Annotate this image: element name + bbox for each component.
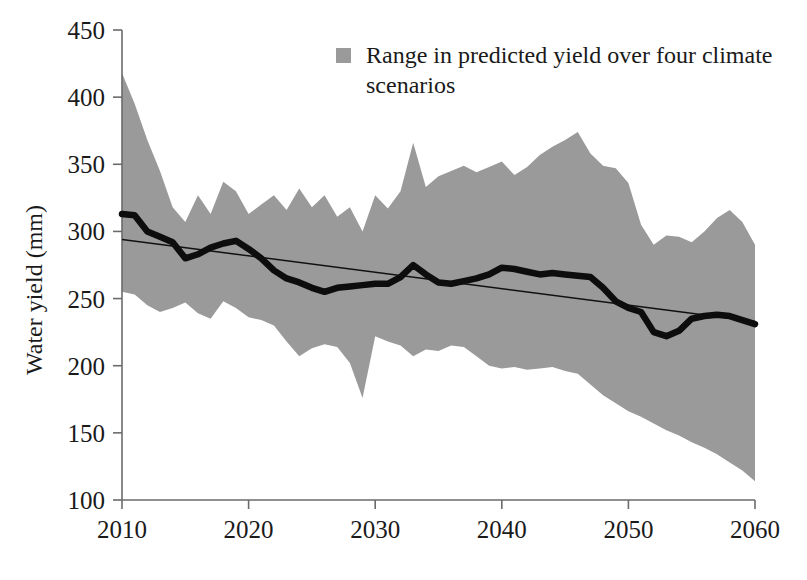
- y-tick-label: 200: [68, 353, 106, 380]
- x-axis-tick-labels: 201020202030204020502060: [97, 516, 780, 543]
- y-axis-tick-marks: [113, 30, 122, 500]
- x-tick-label: 2020: [224, 516, 274, 543]
- y-tick-label: 350: [68, 151, 106, 178]
- y-tick-label: 450: [68, 17, 106, 44]
- uncertainty-band-area: [122, 73, 755, 481]
- x-axis-tick-marks: [122, 500, 755, 509]
- x-tick-label: 2030: [350, 516, 400, 543]
- y-axis-title: Water yield (mm): [21, 205, 47, 375]
- x-tick-label: 2010: [97, 516, 147, 543]
- legend-label-line1: Range in predicted yield over four clima…: [366, 42, 773, 68]
- x-tick-label: 2060: [730, 516, 780, 543]
- chart-legend: Range in predicted yield over four clima…: [336, 42, 773, 98]
- y-tick-label: 100: [68, 487, 106, 514]
- water-yield-chart: 100150200250300350400450 201020202030204…: [0, 0, 807, 580]
- y-tick-label: 400: [68, 84, 106, 111]
- x-tick-label: 2050: [603, 516, 653, 543]
- y-axis-tick-labels: 100150200250300350400450: [68, 17, 106, 514]
- y-tick-label: 150: [68, 420, 106, 447]
- legend-label-line2: scenarios: [366, 72, 455, 98]
- y-tick-label: 300: [68, 218, 106, 245]
- y-tick-label: 250: [68, 286, 106, 313]
- legend-swatch-range: [336, 48, 351, 63]
- x-tick-label: 2040: [477, 516, 527, 543]
- figure-container: 100150200250300350400450 201020202030204…: [0, 0, 807, 580]
